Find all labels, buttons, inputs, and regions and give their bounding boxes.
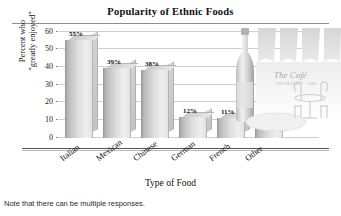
bar-front-other (255, 124, 283, 138)
bar-value-german: 12% (183, 107, 197, 115)
bar-front-german (179, 117, 207, 138)
y-axis-title-line1: Percent who (17, 0, 27, 93)
y-tick-label-60: 60 (33, 27, 53, 36)
title-divider (12, 23, 329, 24)
bar-front-french (217, 118, 245, 138)
bar-italian (65, 40, 91, 138)
chart-footnote: Note that there can be multiple response… (4, 199, 145, 208)
bar-value-italian: 55% (69, 30, 83, 38)
bar-french (217, 118, 243, 138)
bar-front-mexican (103, 68, 131, 138)
bar-mexican (103, 68, 129, 138)
bar-chinese (141, 70, 167, 138)
bar-value-other: 8% (261, 114, 272, 122)
bar-value-french: 11% (221, 108, 235, 116)
chart-figure: Popularity of Ethnic Foods Percent who "… (0, 0, 341, 216)
y-tick-label-0: 0 (33, 133, 53, 142)
x-tick-label-french: French (207, 141, 232, 163)
plot-area: 55% 39% 38% 12% 11% 8% (57, 31, 319, 138)
chart-title: Popularity of Ethnic Foods (0, 6, 341, 17)
y-tick-label-50: 50 (33, 44, 53, 53)
bar-value-chinese: 38% (145, 60, 159, 68)
bar-value-mexican: 39% (107, 58, 121, 66)
y-tick-label-20: 20 (33, 97, 53, 106)
bar-other (255, 124, 281, 138)
y-tick-label-40: 40 (33, 62, 53, 71)
bar-front-italian (65, 40, 93, 138)
bar-front-chinese (141, 70, 169, 138)
x-tick-label-italian: Italian (58, 142, 81, 163)
y-tick-label-10: 10 (33, 115, 53, 124)
y-tick-label-30: 30 (33, 80, 53, 89)
x-tick-label-other: Other (243, 143, 264, 163)
x-axis-title: Type of Food (0, 178, 341, 188)
bar-german (179, 117, 205, 138)
